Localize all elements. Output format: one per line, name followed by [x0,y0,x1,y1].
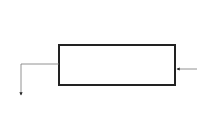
carry-out-wire [21,64,59,95]
adder-diagram [0,0,223,140]
adder-block [59,45,175,85]
